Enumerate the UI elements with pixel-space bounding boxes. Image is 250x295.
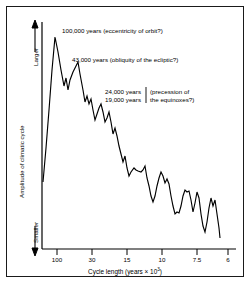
annotation-period-19k: 19,000 years <box>105 96 141 104</box>
y-axis-title: Amplitude of climatic cycle <box>18 125 25 198</box>
figure-container: 100,000 years (eccentricity of orbit?) 4… <box>0 0 250 295</box>
x-tick-label: 30 <box>89 256 96 263</box>
annotation-period-24k: 24,000 years <box>105 88 141 96</box>
x-axis-ticks <box>57 249 228 255</box>
x-axis-title-prefix: Cycle length (years × 10 <box>88 268 157 275</box>
x-tick-label: 100 <box>52 256 62 263</box>
x-axis-title: Cycle length (years × 103) <box>0 267 250 275</box>
annotation-eccentricity: 100,000 years (eccentricity of orbit?) <box>62 27 163 35</box>
annotation-precession-periods: 24,000 years 19,000 years <box>105 88 141 103</box>
x-tick-label: 6 <box>226 256 229 263</box>
x-tick-label: 15 <box>124 256 131 263</box>
annotation-precession-name: (precession of the equinoxes?) <box>150 88 194 103</box>
plot-area <box>0 0 250 295</box>
y-axis-larger-label: Larger <box>32 48 39 66</box>
annotation-precession-line1: (precession of <box>150 88 194 96</box>
x-tick-label: 10 <box>159 256 166 263</box>
y-axis-smaller-label: Smaller <box>32 222 39 243</box>
annotation-precession-line2: the equinoxes?) <box>150 96 194 104</box>
x-axis-title-suffix: ) <box>160 268 162 275</box>
x-tick-label: 7.5 <box>193 256 202 263</box>
annotation-obliquity: 43,000 years (obliquity of the ecliptic?… <box>72 56 178 64</box>
spectrum-curve <box>43 37 220 238</box>
